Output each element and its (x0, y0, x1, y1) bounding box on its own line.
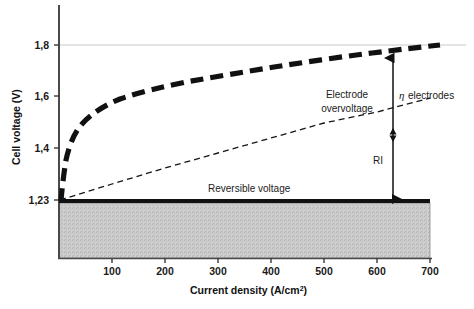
annotation-eta-symbol: η (399, 89, 404, 101)
annotation-electrode-overvoltage-line1: Electrode (326, 89, 369, 100)
x-axis-title-close: ) (304, 284, 308, 296)
annotation-eta-electrodes: η electrodes (399, 89, 454, 101)
x-tick-label-500: 500 (315, 265, 333, 277)
annotation-reversible-voltage: Reversible voltage (208, 183, 291, 194)
x-tick-label-600: 600 (368, 265, 386, 277)
x-axis-title: Current density (A/cm2) (190, 284, 307, 296)
y-tick-label-1-6: 1,6 (34, 90, 49, 102)
annotation-ri: RI (373, 155, 383, 166)
x-tick-label-400: 400 (262, 265, 280, 277)
chart-container: 1,8 1,6 1,4 1,23 100 200 300 400 500 600… (0, 0, 474, 309)
x-tick-label-300: 300 (209, 265, 227, 277)
x-axis-title-main: Current density (A/cm (190, 284, 300, 296)
svg-text:Current density (A/cm2): Current density (A/cm2) (190, 284, 307, 296)
x-tick-label-700: 700 (421, 265, 439, 277)
annotation-eta-electrodes-text: electrodes (408, 90, 454, 101)
y-axis-title: Cell voltage (V) (10, 89, 22, 165)
y-tick-label-1-8: 1,8 (34, 39, 49, 51)
annotation-electrode-overvoltage-line2: overvoltage (321, 103, 373, 114)
y-tick-label-1-4: 1,4 (34, 142, 49, 154)
eta-electrodes-arrow (390, 58, 397, 199)
x-tick-label-100: 100 (103, 265, 121, 277)
x-tick-label-200: 200 (156, 265, 174, 277)
shaded-region (59, 203, 430, 258)
series-total-cell-voltage (61, 45, 440, 201)
y-tick-label-1-23: 1,23 (29, 194, 50, 206)
cell-voltage-vs-current-density-chart: 1,8 1,6 1,4 1,23 100 200 300 400 500 600… (0, 0, 474, 309)
